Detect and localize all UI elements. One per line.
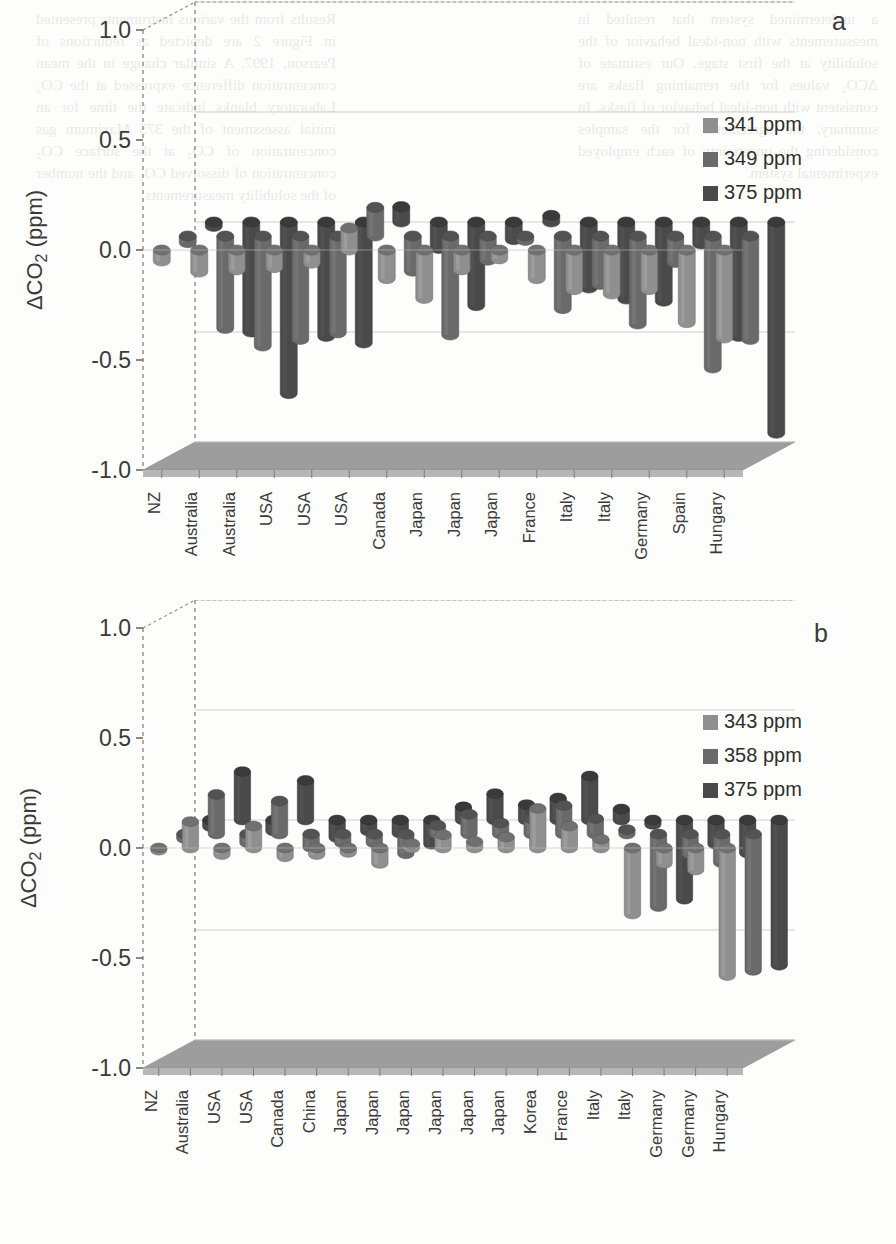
x-tick-label: USA [295, 492, 313, 526]
y-tick-label: -0.5 [91, 347, 131, 373]
chart-svg-a: 1.00.50.0-0.5-1.0ΔCO2 (ppm)NZAustraliaAu… [0, 0, 896, 620]
legend-swatch [703, 118, 718, 133]
bar-cylinder [498, 832, 514, 853]
y-axis-title: ΔCO2 (ppm) [16, 788, 44, 908]
y-tick-label: -1.0 [91, 457, 131, 483]
panel-letter: a [832, 7, 846, 35]
legend: 341 ppm349 ppm375 ppm [703, 113, 802, 203]
y-tick-label: -1.0 [91, 1055, 131, 1081]
bar-series [177, 789, 762, 975]
bar-series [151, 803, 736, 980]
x-tick-label: Japan [426, 1090, 444, 1135]
x-tick-label: Japan [331, 1090, 349, 1135]
bar-cylinder [593, 834, 609, 853]
bar-series-group [153, 202, 785, 439]
x-tick-label: Italy [595, 491, 613, 522]
y-tick-label: 1.0 [99, 615, 131, 641]
x-tick-label: Korea [521, 1089, 539, 1134]
bar-cylinder [208, 789, 224, 838]
x-tick-label: Italy [584, 1089, 602, 1120]
x-tick-label: Japan [482, 492, 500, 537]
x-tick-label: Japan [407, 492, 425, 537]
bar-cylinder [416, 245, 433, 304]
bar-cylinder [466, 836, 482, 852]
bar-cylinder [153, 245, 170, 266]
chart-floor-lip [143, 470, 743, 477]
bar-cylinder [624, 843, 640, 919]
bar-cylinder [716, 245, 733, 343]
x-tick-label: Australia [173, 1089, 191, 1154]
x-tick-label: Japan [445, 492, 463, 537]
bar-cylinder [619, 825, 635, 839]
x-tick-label: Germany [632, 491, 650, 560]
y-tick-label: -0.5 [91, 945, 131, 971]
chart-panel-a: 1.00.50.0-0.5-1.0ΔCO2 (ppm)NZAustraliaAu… [0, 0, 896, 620]
chart-floor [143, 1040, 795, 1068]
bar-cylinder [745, 829, 761, 975]
x-axis: NZAustraliaUSAUSACanadaChinaJapanJapanJa… [142, 1068, 728, 1158]
bar-cylinder [491, 245, 508, 264]
x-tick-label: Germany [679, 1089, 697, 1158]
legend-label: 341 ppm [724, 113, 802, 135]
bar-cylinder [403, 839, 419, 853]
bar-cylinder [266, 245, 283, 273]
bar-cylinder [566, 245, 583, 295]
x-tick-label: USA [205, 1090, 223, 1124]
bar-cylinder [234, 767, 250, 825]
x-tick-label: Hungary [707, 491, 725, 554]
bar-cylinder [151, 843, 167, 855]
bar-cylinder [719, 843, 735, 980]
legend-swatch [703, 783, 718, 798]
bar-cylinder [228, 245, 245, 275]
x-tick-label: USA [257, 492, 275, 526]
x-tick-label: France [552, 1090, 570, 1141]
figure-page: a undetermined system that resulted in m… [0, 0, 896, 1244]
legend-swatch [703, 749, 718, 764]
chart-floor [143, 442, 795, 470]
bar-cylinder [340, 843, 356, 857]
bar-cylinder [308, 843, 324, 859]
y-tick-label: 0.5 [99, 127, 131, 153]
panel-letter: b [814, 619, 828, 647]
bar-cylinder [678, 245, 695, 328]
x-tick-label: Canada [370, 491, 388, 550]
x-tick-label: Japan [489, 1090, 507, 1135]
bar-cylinder [656, 843, 672, 868]
y-tick-label: 0.0 [99, 835, 131, 861]
x-tick-label: China [300, 1089, 318, 1133]
x-tick-label: Canada [268, 1089, 286, 1148]
legend-label: 375 ppm [724, 778, 802, 800]
bar-cylinder [771, 815, 787, 970]
x-tick-label: Spain [670, 492, 688, 534]
legend-swatch [703, 715, 718, 730]
y-tick-label: 0.5 [99, 725, 131, 751]
bar-cylinder [641, 245, 658, 295]
bar-cylinder [650, 829, 666, 911]
x-tick-label: France [520, 492, 538, 543]
y-axis: 1.00.50.0-0.5-1.0 [91, 17, 143, 483]
y-tick-label: 1.0 [99, 17, 131, 43]
x-tick-label: Germany [647, 1089, 665, 1158]
legend-label: 375 ppm [724, 181, 802, 203]
bar-cylinder [297, 775, 313, 824]
legend-label: 349 ppm [724, 147, 802, 169]
bar-series-group [151, 767, 788, 981]
bar-cylinder [277, 843, 293, 862]
x-tick-label: Italy [615, 1089, 633, 1120]
legend-label: 343 ppm [724, 710, 802, 732]
bar-cylinder [435, 830, 451, 853]
y-tick-label: 0.0 [99, 237, 131, 263]
chart-svg-b: 1.00.50.0-0.5-1.0ΔCO2 (ppm)NZAustraliaUS… [0, 600, 896, 1244]
legend-label: 358 ppm [724, 744, 802, 766]
bar-cylinder [603, 245, 620, 299]
y-axis-title: ΔCO2 (ppm) [22, 190, 50, 310]
bar-cylinder [205, 217, 222, 232]
bar-cylinder [372, 843, 388, 868]
x-tick-label: Japan [363, 1090, 381, 1135]
bar-cylinder [768, 217, 785, 438]
bar-cylinder [393, 202, 410, 228]
bar-cylinder [214, 843, 230, 859]
x-tick-label: Australia [182, 491, 200, 556]
x-tick-label: Australia [220, 491, 238, 556]
chart-panel-b: 1.00.50.0-0.5-1.0ΔCO2 (ppm)NZAustraliaUS… [0, 600, 896, 1244]
